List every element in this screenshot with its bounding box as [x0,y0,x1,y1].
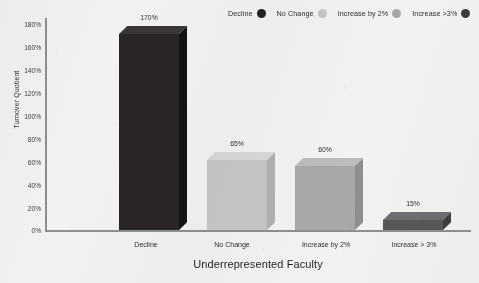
legend-item-increase-over-3[interactable]: Increase >3% [412,9,470,18]
y-tick-label: 100% [5,113,41,120]
x-tick-label-no-change: No Change [214,241,249,248]
x-axis-title: Underrepresented Faculty [45,258,471,270]
legend-label: Decline [228,9,253,18]
bar-decline[interactable]: 170% [119,26,179,230]
x-axis-line [45,230,471,232]
bar-front-face [119,34,179,230]
x-tick-label-decline: Decline [134,241,157,248]
bar-value-label: 15% [383,200,443,207]
bar-side-face [179,26,187,230]
bar-value-label: 170% [119,14,179,21]
y-tick-label: 80% [5,136,41,143]
bar-side-face [267,152,275,230]
bar-side-face [355,158,363,230]
bar-chart: Decline No Change Increase by 2% Increas… [0,0,479,283]
bar-increase-by-2[interactable]: 60% [295,158,355,230]
legend-item-increase-by-2[interactable]: Increase by 2% [338,9,402,18]
legend-swatch-increase-over-3 [461,9,470,18]
bar-top-face [207,152,275,160]
legend-swatch-decline [257,9,266,18]
y-tick-label: 40% [5,182,41,189]
y-axis-ticks: 180% 160% 140% 120% 100% 80% 60% 40% 20%… [0,0,41,283]
bar-value-label: 65% [207,140,267,147]
legend-label: Increase >3% [412,9,457,18]
legend-swatch-increase-by-2 [392,9,401,18]
legend-swatch-no-change [318,9,327,18]
y-tick-label: 120% [5,90,41,97]
bar-top-face [295,158,363,166]
x-tick-label-increase-over-3: Increase > 3% [392,241,437,248]
bar-front-face [383,220,443,230]
y-tick-label: 0% [5,227,41,234]
bar-increase-over-3[interactable]: 15% [383,212,443,230]
bar-front-face [295,166,355,230]
legend-item-decline[interactable]: Decline [228,9,266,18]
y-tick-label: 180% [5,21,41,28]
y-tick-label: 140% [5,67,41,74]
x-tick-label-increase-by-2: Increase by 2% [302,241,350,248]
legend-label: No Change [277,9,314,18]
y-axis-line [45,18,47,231]
bar-no-change[interactable]: 65% [207,152,267,230]
legend-item-no-change[interactable]: No Change [277,9,327,18]
bar-top-face [383,212,451,220]
y-tick-label: 20% [5,205,41,212]
chart-legend: Decline No Change Increase by 2% Increas… [228,9,470,18]
y-tick-label: 160% [5,44,41,51]
bar-value-label: 60% [295,146,355,153]
y-tick-label: 60% [5,159,41,166]
bar-top-face [119,26,187,34]
legend-label: Increase by 2% [338,9,389,18]
bar-front-face [207,160,267,230]
